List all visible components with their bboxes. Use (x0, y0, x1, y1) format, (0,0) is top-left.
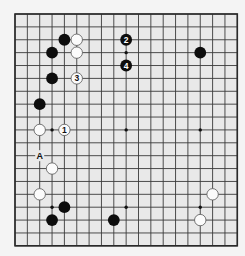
black-stone (46, 47, 58, 59)
black-stone: 2 (120, 34, 132, 46)
star-point (199, 206, 202, 209)
move-number-label: 2 (124, 35, 129, 45)
black-stone (34, 98, 46, 110)
markers: A (35, 150, 44, 161)
white-stone (34, 124, 45, 135)
white-stone (46, 163, 57, 174)
move-number-label: 3 (74, 73, 79, 83)
white-stone-disc (46, 163, 57, 174)
white-stone-disc (71, 34, 82, 45)
black-stone-disc (59, 34, 71, 46)
black-stone-disc (46, 214, 58, 226)
star-point (124, 206, 127, 209)
star-point (50, 206, 53, 209)
black-stone-disc (46, 73, 58, 85)
black-stone (59, 201, 71, 213)
go-board: 2431 A (0, 0, 245, 256)
black-stone (46, 214, 58, 226)
star-point (124, 51, 127, 54)
black-stone (108, 214, 120, 226)
white-stone-disc (195, 214, 206, 225)
star-point (199, 128, 202, 131)
white-stone (195, 214, 206, 225)
move-number-label: 1 (62, 125, 67, 135)
point-marker-label: A (36, 151, 43, 161)
black-stone-disc (46, 47, 58, 59)
white-stone: 3 (71, 73, 82, 84)
black-stone (59, 34, 71, 46)
black-stone (194, 47, 206, 59)
white-stone-disc (71, 47, 82, 58)
black-stone-disc (108, 214, 120, 226)
black-stone: 4 (120, 60, 132, 72)
white-stone (71, 47, 82, 58)
white-stone-disc (34, 124, 45, 135)
white-stone (34, 189, 45, 200)
move-number-label: 4 (124, 61, 129, 71)
white-stone (71, 34, 82, 45)
black-stone (46, 73, 58, 85)
go-board-diagram: 2431 A (0, 0, 245, 256)
black-stone-disc (59, 201, 71, 213)
white-stone: 1 (59, 124, 70, 135)
star-point (50, 128, 53, 131)
black-stone-disc (34, 98, 46, 110)
white-stone-disc (207, 189, 218, 200)
white-stone (207, 189, 218, 200)
star-point (124, 128, 127, 131)
black-stone-disc (194, 47, 206, 59)
white-stone-disc (34, 189, 45, 200)
